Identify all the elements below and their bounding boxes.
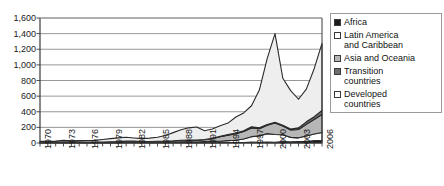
x-axis-tick-label: 1994 [232, 129, 241, 149]
legend-item[interactable]: Transition countries [334, 66, 439, 86]
x-axis-tick-label: 1970 [44, 129, 53, 149]
legend-item[interactable]: Asia and Oceania [334, 53, 439, 63]
x-axis-tick-label: 1988 [185, 129, 194, 149]
x-axis-tick-label: 1985 [162, 129, 171, 149]
legend-item-label: Transition countries [344, 66, 383, 86]
legend-swatch-icon [334, 32, 341, 39]
x-axis-tick-label: 1997 [256, 129, 265, 149]
legend-swatch-icon [334, 68, 341, 75]
x-axis-tick-label: 2000 [279, 129, 288, 149]
chart-legend: AfricaLatin America and CaribbeanAsia an… [330, 13, 442, 113]
legend-swatch-icon [334, 91, 341, 98]
x-axis-tick-label: 2003 [303, 129, 312, 149]
x-axis-tick-label: 1991 [209, 129, 218, 149]
x-axis-tick-label: 1976 [91, 129, 100, 149]
x-axis-tick-label: 1973 [68, 129, 77, 149]
legend-item[interactable]: Developed countries [334, 89, 439, 109]
x-axis-tick-label: 1979 [115, 129, 124, 149]
x-axis-tick-label: 1982 [138, 129, 147, 149]
legend-item[interactable]: Africa [334, 17, 439, 27]
legend-item-label: Asia and Oceania [344, 53, 415, 63]
legend-swatch-icon [334, 55, 341, 62]
legend-item[interactable]: Latin America and Caribbean [334, 30, 439, 50]
legend-item-label: Latin America and Caribbean [344, 30, 403, 50]
stacked-area-chart: 1,6001,4001,2001,0008006004002000 197019… [0, 0, 444, 186]
x-axis-tick-label: 2006 [326, 129, 335, 149]
legend-swatch-icon [334, 19, 341, 26]
legend-item-label: Developed countries [344, 89, 387, 109]
legend-item-label: Africa [344, 17, 367, 27]
